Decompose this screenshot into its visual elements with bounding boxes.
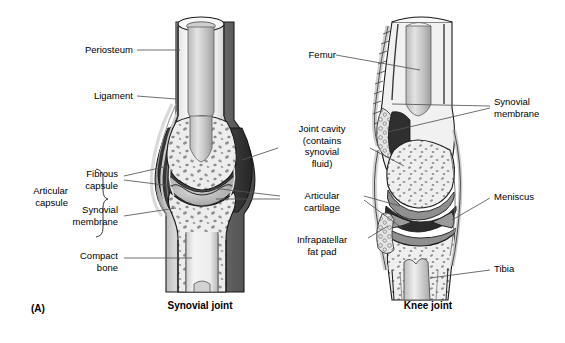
knee-joint-illustration <box>373 17 460 300</box>
label-joint-cavity: Joint cavity (contains synovial fluid) <box>278 123 366 169</box>
label-articular-capsule: Articular capsule <box>0 185 68 208</box>
panel-letter: (A) <box>31 303 45 314</box>
label-tibia: Tibia <box>494 263 564 275</box>
label-synovial-membrane-right: Synovial membrane <box>494 96 564 119</box>
label-meniscus: Meniscus <box>494 191 564 203</box>
label-ligament: Ligament <box>33 90 133 102</box>
label-periosteum: Periosteum <box>33 44 133 56</box>
caption-synovial-joint: Synovial joint <box>140 300 260 312</box>
label-articular-cartilage: Articular cartilage <box>278 190 366 213</box>
caption-knee-joint: Knee joint <box>378 300 478 312</box>
synovial-joint-illustration <box>151 17 254 292</box>
label-compact-bone: Compact bone <box>18 250 118 273</box>
label-infrapatellar-fat-pad: Infrapatellar fat pad <box>274 234 370 257</box>
label-femur: Femur <box>266 49 336 61</box>
anatomy-figure: Periosteum Ligament Fibrous capsule Syno… <box>0 0 565 343</box>
